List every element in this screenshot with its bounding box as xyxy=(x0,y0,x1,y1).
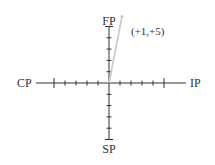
vector-tip xyxy=(121,15,124,18)
axis-label-left: CP xyxy=(17,76,32,90)
axis-label-right: IP xyxy=(190,76,201,90)
quadrant-diagram: CP IP FP SP (+1,+5) xyxy=(0,0,215,165)
horizontal-axis xyxy=(36,78,186,88)
vector-label: (+1,+5) xyxy=(131,25,165,38)
axis-label-bottom: SP xyxy=(102,142,116,156)
axis-label-top: FP xyxy=(102,14,116,28)
